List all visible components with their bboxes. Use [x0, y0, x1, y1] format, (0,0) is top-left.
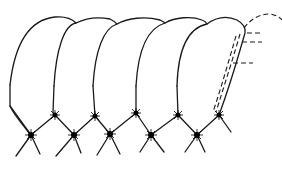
segment-5 — [177, 14, 282, 115]
junction-knots — [25, 108, 224, 141]
segment-1 — [10, 17, 76, 135]
knot-10 — [214, 110, 224, 120]
knot-7 — [145, 129, 157, 141]
knot-4 — [90, 111, 100, 121]
knot-8 — [173, 110, 183, 120]
junction-lines — [10, 106, 231, 156]
knot-6 — [131, 108, 141, 118]
segment-4 — [136, 18, 207, 113]
knot-2 — [50, 110, 60, 120]
segment-2 — [53, 18, 117, 115]
segment-diagram — [0, 0, 282, 172]
segment-3 — [93, 18, 165, 116]
